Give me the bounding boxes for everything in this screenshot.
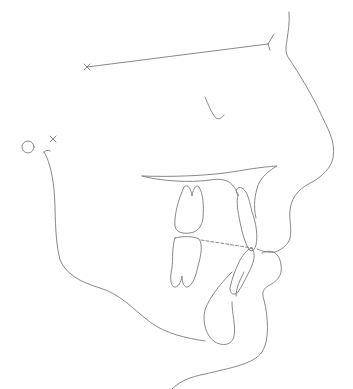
upper-molar [175,186,204,234]
palate-lower-edge [142,176,238,195]
cephalometric-canvas [0,0,353,389]
symphysis [204,272,235,344]
porion-circle-icon [22,141,34,153]
orbit-outline [205,97,224,119]
palatal-plane [142,166,277,218]
condyle-tick [44,150,50,152]
lower-incisor [230,248,254,294]
nasion-marker-icon [268,34,274,50]
sella-nasion-line [87,44,268,67]
soft-tissue-profile-upper [257,12,334,252]
occlusal-plane-dashed [201,240,252,248]
soft-tissue-lower-lip [172,251,281,389]
upper-incisor [236,187,256,250]
mandible-border [44,152,205,341]
condylion-x-icon [50,136,56,142]
tracing-svg [0,0,353,389]
lower-molar [171,237,202,288]
